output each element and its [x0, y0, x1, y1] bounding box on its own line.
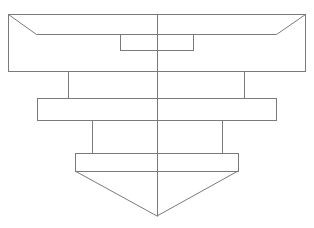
technical-drawing	[0, 0, 314, 228]
top-flange-chamfer-right	[277, 15, 306, 35]
top-flange-chamfer-left	[9, 15, 37, 35]
upper-body	[69, 72, 245, 99]
cone-tip	[75, 171, 238, 216]
